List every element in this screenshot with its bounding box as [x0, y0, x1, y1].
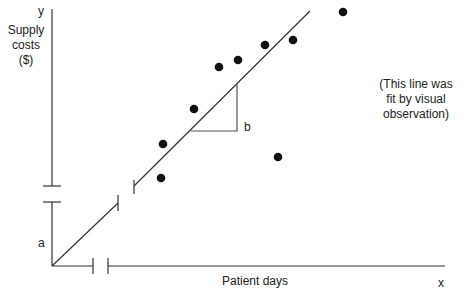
data-point: [261, 41, 270, 50]
data-point: [215, 63, 224, 72]
slope-label: b: [244, 120, 251, 134]
data-point: [157, 174, 166, 183]
y-axis-title-line: ($): [2, 53, 50, 68]
y-axis-symbol: y: [38, 4, 44, 18]
y-axis-title-line: Supply: [2, 23, 50, 38]
fit-line-lower: [52, 203, 118, 266]
data-points: [157, 8, 348, 183]
fit-note: (This line was fit by visual observation…: [366, 77, 465, 122]
y-axis-title: Supply costs ($): [2, 23, 50, 68]
intercept-label: a: [38, 236, 45, 250]
data-point: [234, 56, 243, 65]
data-point: [274, 153, 283, 162]
data-point: [289, 36, 298, 45]
fit-note-line: (This line was: [366, 77, 465, 92]
fit-note-line: fit by visual: [366, 92, 465, 107]
data-point: [190, 105, 199, 114]
data-point: [339, 8, 348, 17]
fit-note-line: observation): [366, 107, 465, 122]
x-axis-title: Patient days: [222, 274, 288, 288]
data-point: [159, 140, 168, 149]
scatter-diagram: [0, 0, 465, 301]
y-axis-title-line: costs: [2, 38, 50, 53]
fit-line-upper: [134, 11, 310, 186]
x-axis-symbol: x: [438, 276, 444, 290]
